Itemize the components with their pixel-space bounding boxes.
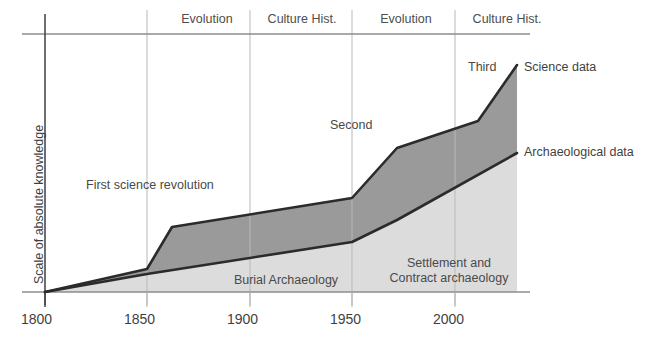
annotation-third: Third (468, 60, 496, 74)
annotation-first-science-revolution: First science revolution (86, 178, 214, 192)
x-tick-label-1950: 1950 (330, 311, 361, 327)
x-tick-label-1900: 1900 (227, 311, 258, 327)
series-label-science-data: Science data (524, 60, 596, 74)
series-label-archaeological-data: Archaeological data (524, 145, 634, 159)
band-label-settlement-line1: Settlement and (386, 256, 512, 270)
era-label-evolution-2: Evolution (362, 12, 450, 26)
era-label-culture-hist-1: Culture Hist. (258, 12, 346, 26)
x-tick-label-1850: 1850 (124, 311, 155, 327)
x-tick-label-2000: 2000 (433, 311, 464, 327)
knowledge-growth-chart: Scale of absolute knowledge Evolution Cu… (0, 0, 649, 342)
band-label-settlement-line2: Contract archaeology (386, 271, 512, 285)
x-tick-label-1800: 1800 (21, 311, 52, 327)
era-label-evolution-1: Evolution (163, 12, 251, 26)
annotation-second: Second (330, 118, 372, 132)
band-label-burial-archaeology: Burial Archaeology (222, 273, 350, 287)
chart-canvas (0, 0, 649, 342)
era-label-culture-hist-2: Culture Hist. (463, 12, 551, 26)
y-axis-title: Scale of absolute knowledge (32, 125, 46, 284)
